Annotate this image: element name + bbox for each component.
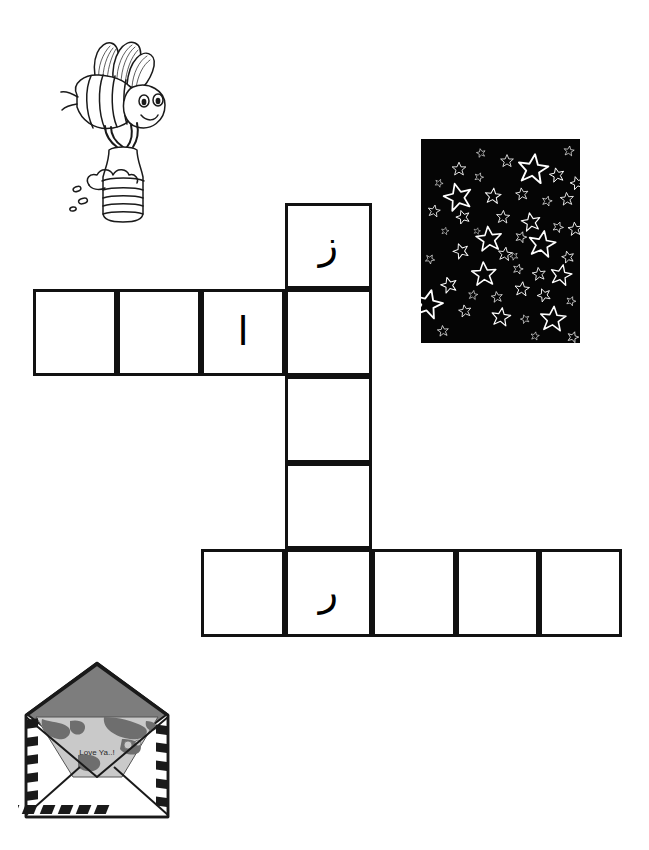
- worksheet-page: ز ا ر: [0, 0, 649, 850]
- cell-across-bottom-2[interactable]: [372, 549, 456, 637]
- bee-illustration-svg: [55, 33, 180, 223]
- cell-across-top-2[interactable]: ا: [201, 289, 285, 376]
- cell-across-top-1[interactable]: [117, 289, 201, 376]
- bee-with-honey-pot-image: [55, 33, 180, 223]
- cell-across-bottom-3[interactable]: [456, 549, 539, 637]
- envelope-illustration-svg: Love Ya..!: [18, 655, 176, 827]
- cell-down-0[interactable]: ز: [285, 203, 372, 289]
- cell-letter: ا: [237, 311, 248, 351]
- letter-text: Love Ya..!: [79, 748, 114, 757]
- stars-illustration-svg: [421, 139, 580, 343]
- cell-across-top-3-shared[interactable]: [285, 289, 372, 376]
- cell-across-top-0[interactable]: [33, 289, 117, 376]
- cell-letter: ر: [319, 571, 338, 611]
- cell-across-bottom-0[interactable]: [201, 549, 285, 637]
- cell-letter: ز: [319, 224, 338, 264]
- cell-down-2[interactable]: [285, 376, 372, 463]
- open-airmail-envelope-image: Love Ya..!: [18, 655, 176, 827]
- cell-across-bottom-4[interactable]: [539, 549, 622, 637]
- cell-down-3[interactable]: [285, 463, 372, 549]
- night-sky-stars-image: [421, 139, 580, 343]
- cell-across-bottom-1-shared[interactable]: ر: [285, 549, 372, 637]
